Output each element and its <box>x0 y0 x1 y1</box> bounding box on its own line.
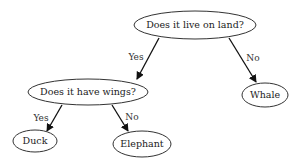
edge-arrow <box>47 105 62 131</box>
edge-wings-to-elephant: No <box>112 105 139 131</box>
node-label: Duck <box>23 135 48 146</box>
edge-root-to-whale: No <box>229 38 260 82</box>
node-root: Does it live on land? <box>134 11 256 39</box>
edge-label-yes: Yes <box>32 113 48 123</box>
edge-label-no: No <box>125 112 138 122</box>
edge-label-yes: Yes <box>127 52 143 62</box>
edge-root-to-wings: Yes <box>127 38 159 79</box>
node-label: Whale <box>250 89 281 100</box>
node-label: Does it live on land? <box>146 19 244 30</box>
node-duck: Duck <box>13 130 57 152</box>
edge-label-no: No <box>246 53 259 63</box>
node-label: Elephant <box>120 138 164 149</box>
node-label: Does it have wings? <box>40 86 136 97</box>
node-whale: Whale <box>242 83 288 107</box>
node-elephant: Elephant <box>113 131 171 157</box>
decision-tree-diagram: Yes No Yes No Does it live on land? Does… <box>0 0 303 167</box>
node-wings: Does it have wings? <box>28 79 148 105</box>
edge-wings-to-duck: Yes <box>32 105 62 131</box>
